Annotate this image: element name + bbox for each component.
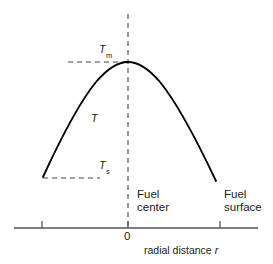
x-axis-title-variable: r [212,244,218,256]
fuel-center-label: Fuel center [137,188,169,214]
fuel-center-label-line2: center [137,201,169,214]
t-surface-subscript: s [106,167,110,176]
fuel-temperature-profile-figure: Tm Ts T Fuel center Fuel surface 0 radia… [0,0,273,264]
fuel-surface-label: Fuel surface [224,188,262,214]
plot-canvas [0,0,273,264]
t-max-label: Tm [99,43,112,59]
t-surface-symbol: T [99,159,106,171]
t-max-subscript: m [106,51,112,60]
temperature-curve-label: T [91,112,98,124]
x-axis-title-text: radial distance [144,244,212,256]
fuel-surface-label-line1: Fuel [224,188,262,201]
x-axis-origin-label: 0 [124,230,130,243]
temperature-profile-curve [43,62,216,181]
t-max-symbol: T [99,43,106,55]
x-axis-title: radial distance r [144,245,218,257]
fuel-center-label-line1: Fuel [137,188,169,201]
t-surface-label: Ts [99,159,109,175]
fuel-surface-label-line2: surface [224,201,262,214]
